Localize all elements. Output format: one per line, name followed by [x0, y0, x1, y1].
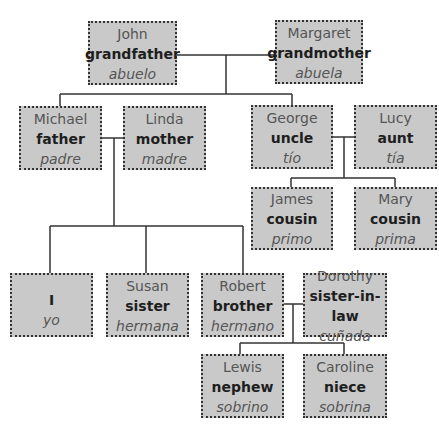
- person-relation: aunt: [377, 128, 413, 148]
- person-mary: Mary cousin prima: [354, 187, 437, 250]
- person-name: Linda: [145, 109, 183, 129]
- person-name: Margaret: [287, 23, 350, 43]
- person-name: Caroline: [316, 357, 374, 377]
- person-relation: sister: [125, 296, 170, 316]
- person-relation: sister-in-law: [305, 286, 385, 326]
- person-name: Lucy: [379, 108, 411, 128]
- person-robert: Robert brother hermano: [201, 273, 284, 337]
- person-name: Robert: [219, 276, 265, 296]
- person-name: John: [117, 24, 147, 44]
- person-spanish: abuelo: [109, 64, 156, 84]
- person-spanish: sobrina: [319, 397, 371, 417]
- person-spanish: yo: [43, 310, 60, 330]
- person-linda: Linda mother madre: [123, 106, 206, 170]
- person-spanish: tía: [387, 148, 405, 168]
- person-spanish: sobrino: [217, 397, 269, 417]
- person-name: Michael: [34, 109, 88, 129]
- person-relation: uncle: [271, 128, 314, 148]
- person-george: George uncle tío: [251, 105, 333, 169]
- person-relation: mother: [136, 129, 193, 149]
- person-dorothy: Dorothy sister-in-law cuñada: [303, 273, 387, 337]
- person-john: John grandfather abuelo: [88, 21, 177, 85]
- person-lewis: Lewis nephew sobrino: [201, 354, 284, 418]
- family-tree-diagram: John grandfather abuelo Margaret grandmo…: [0, 0, 439, 428]
- person-relation: father: [36, 129, 85, 149]
- person-spanish: prima: [375, 229, 416, 249]
- person-name: George: [266, 108, 317, 128]
- person-spanish: tío: [283, 148, 301, 168]
- person-susan: Susan sister hermana: [106, 273, 189, 337]
- person-relation: niece: [324, 377, 366, 397]
- person-name: Dorothy: [317, 266, 373, 286]
- person-name: Lewis: [223, 357, 262, 377]
- person-relation: grandfather: [85, 44, 180, 64]
- person-relation: I: [49, 290, 54, 310]
- person-michael: Michael father padre: [19, 106, 102, 170]
- person-name: Susan: [126, 276, 169, 296]
- person-spanish: madre: [142, 149, 187, 169]
- person-name: Mary: [378, 189, 413, 209]
- person-spanish: cuñada: [319, 326, 371, 346]
- person-caroline: Caroline niece sobrina: [303, 354, 387, 418]
- person-name: James: [271, 189, 313, 209]
- person-spanish: padre: [40, 149, 81, 169]
- person-relation: cousin: [370, 209, 421, 229]
- person-lucy: Lucy aunt tía: [354, 105, 437, 169]
- person-self: I yo: [10, 273, 93, 337]
- person-spanish: hermana: [116, 316, 179, 336]
- person-relation: cousin: [267, 209, 318, 229]
- person-spanish: hermano: [211, 316, 274, 336]
- person-relation: grandmother: [267, 43, 371, 63]
- person-relation: nephew: [212, 377, 274, 397]
- person-spanish: abuela: [295, 63, 342, 83]
- person-spanish: primo: [272, 229, 313, 249]
- person-margaret: Margaret grandmother abuela: [275, 20, 363, 84]
- person-james: James cousin primo: [251, 187, 333, 250]
- person-relation: brother: [213, 296, 273, 316]
